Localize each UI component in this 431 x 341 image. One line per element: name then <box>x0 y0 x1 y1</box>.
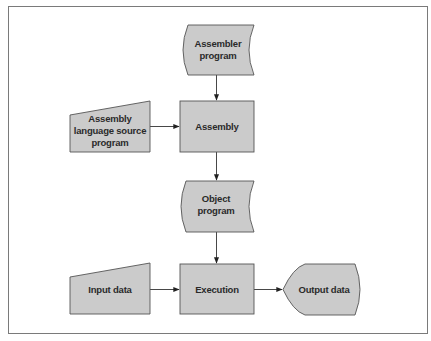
node-label: Output data <box>298 284 350 295</box>
node-label: program <box>91 137 128 148</box>
node-label: Assembly <box>195 121 239 132</box>
node-object-program: Object program <box>181 181 254 232</box>
node-label: language source <box>74 125 147 136</box>
flowchart-canvas: Assembler program Assembly language sour… <box>0 0 431 341</box>
node-label: Assembly <box>88 113 132 124</box>
node-assembler-program: Assembler program <box>183 25 254 75</box>
node-label: Input data <box>88 284 132 295</box>
node-label: Object <box>202 193 231 204</box>
node-output-data: Output data <box>283 264 360 315</box>
node-label: program <box>199 50 236 61</box>
node-label: program <box>197 205 234 216</box>
node-assembly: Assembly <box>180 101 254 152</box>
node-execution: Execution <box>180 264 254 314</box>
node-label: Assembler <box>195 38 242 49</box>
node-label: Execution <box>195 284 239 295</box>
